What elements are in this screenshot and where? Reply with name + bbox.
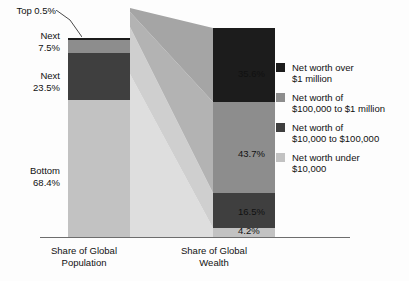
- segment-population-10k-100k: [68, 53, 130, 100]
- legend-label-100k-1m-line2: $100,000 to $1 million: [292, 103, 409, 114]
- legend-item-under-10k[interactable]: Net worth under $10,000: [276, 152, 409, 174]
- label-top-0-5-percent: Top 0.5%: [0, 5, 56, 16]
- legend-label-10k-100k-line1: Net worth of: [292, 122, 409, 133]
- label-next-23-5-percent-line1: Next: [0, 70, 60, 81]
- legend-label-under-10k-line1: Net worth under: [292, 152, 409, 163]
- label-wealth-16-5-percent: 16.5%: [238, 206, 265, 217]
- label-bottom-68-4-percent-line1: Bottom: [0, 165, 60, 176]
- legend-item-10k-100k[interactable]: Net worth of $10,000 to $100,000: [276, 122, 409, 144]
- axis-label-population-line1: Share of Global: [29, 245, 139, 256]
- legend-label-under-10k-line2: $10,000: [292, 163, 409, 174]
- legend-label-over-1m-line2: $1 million: [292, 73, 409, 84]
- legend-item-over-1m[interactable]: Net worth over $1 million: [276, 62, 409, 84]
- bar-share-of-global-population: [68, 38, 130, 237]
- legend-label-over-1m-line1: Net worth over: [292, 62, 409, 73]
- legend: Net worth over $1 million Net worth of $…: [276, 62, 409, 182]
- legend-label-10k-100k-line2: $10,000 to $100,000: [292, 133, 409, 144]
- legend-swatch-100k-1m: [276, 93, 285, 102]
- label-wealth-4-2-percent: 4.2%: [238, 225, 260, 236]
- segment-population-under-10k: [68, 100, 130, 237]
- label-next-7-5-percent-line1: Next: [0, 30, 60, 41]
- legend-swatch-over-1m: [276, 63, 285, 72]
- label-next-7-5-percent-line2: 7.5%: [0, 42, 60, 53]
- wealth-pyramid-chart: Top 0.5% Next 7.5% Next 23.5% Bottom 68.…: [0, 0, 409, 281]
- axis-label-wealth-line1: Share of Global: [159, 245, 269, 256]
- legend-swatch-under-10k: [276, 153, 285, 162]
- legend-item-100k-1m[interactable]: Net worth of $100,000 to $1 million: [276, 92, 409, 114]
- label-wealth-35-6-percent: 35.6%: [238, 68, 265, 79]
- axis-baseline: [40, 237, 350, 238]
- axis-label-wealth-line2: Wealth: [159, 257, 269, 268]
- legend-swatch-10k-100k: [276, 123, 285, 132]
- segment-wealth-over-1m: [213, 28, 275, 102]
- axis-label-population-line2: Population: [29, 257, 139, 268]
- label-bottom-68-4-percent-line2: 68.4%: [0, 177, 60, 188]
- label-wealth-43-7-percent: 43.7%: [238, 148, 265, 159]
- label-next-23-5-percent-line2: 23.5%: [0, 82, 60, 93]
- segment-population-100k-1m: [68, 40, 130, 53]
- legend-label-100k-1m-line1: Net worth of: [292, 92, 409, 103]
